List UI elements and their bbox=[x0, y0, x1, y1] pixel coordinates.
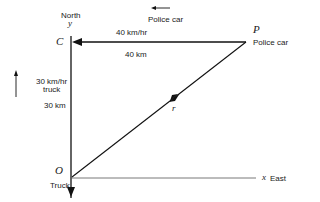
point-p-label: P bbox=[253, 24, 260, 35]
vector-r-line bbox=[72, 42, 246, 177]
x-axis-label: x bbox=[262, 173, 266, 182]
police-speed-label: 40 km/hr bbox=[116, 28, 147, 37]
truck-speed-label-2: truck bbox=[43, 85, 60, 94]
police-distance-label: 40 km bbox=[125, 50, 147, 59]
point-p-caption: Police car bbox=[253, 38, 288, 47]
point-o-caption: Truck bbox=[50, 181, 70, 190]
point-o-label: O bbox=[55, 165, 63, 176]
y-axis-label: y bbox=[68, 19, 72, 28]
point-c-label: C bbox=[56, 36, 63, 47]
police-arrowhead bbox=[72, 38, 82, 46]
police-legend-label: Police car bbox=[148, 15, 183, 24]
east-label: East bbox=[270, 174, 286, 183]
truck-distance-label: 30 km bbox=[44, 101, 66, 110]
vector-r-label: r⃗ bbox=[172, 104, 183, 113]
